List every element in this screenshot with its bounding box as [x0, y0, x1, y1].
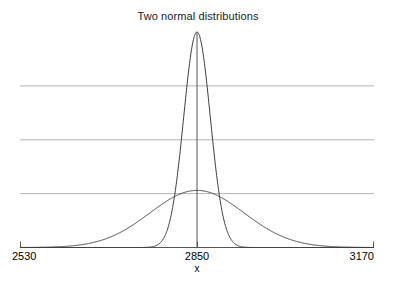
chart-figure: Two normal distributions 2530 2850 3170 … [0, 0, 396, 284]
x-tick-label-3170: 3170 [350, 250, 374, 263]
plot-area [0, 0, 396, 284]
x-axis-label: x [195, 263, 200, 275]
x-tick-label-2530: 2530 [12, 250, 36, 263]
x-tick-label-2850: 2850 [185, 250, 209, 263]
